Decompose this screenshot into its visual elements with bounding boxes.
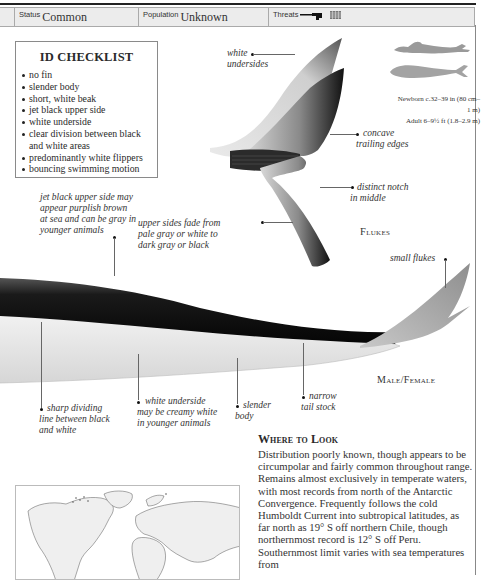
checklist-item: no fin [22,69,151,81]
leader-line [263,222,293,223]
harpoon-gun-icon [300,12,324,20]
annotation-small-flukes: small flukes [390,253,435,264]
annotation-upper-sides-fade: upper sides fade from pale gray or white… [138,218,220,251]
leader-line [138,354,139,400]
status-bar: Status Common Population Unknown Threats [0,7,475,27]
threats-cell: Threats [269,8,474,26]
annotation-line: upper sides fade from [138,218,220,229]
fishing-net-icon [330,11,342,20]
annotation-line: younger animals [40,225,136,236]
newborn-size: Newborn c.32–39 in (80 cm–1 m) [395,94,480,116]
annotation-line: distinct notch [350,182,408,193]
where-to-look: Where to Look Distribution poorly known,… [258,432,473,570]
annotation-line: in younger animals [137,418,217,429]
id-checklist: ID CHECKLIST no fin slender body short, … [15,41,158,178]
population-value: Unknown [180,10,227,25]
annotation-line: concave [356,128,409,139]
where-to-look-heading: Where to Look [258,432,473,447]
annotation-narrow-tail-stock: narrow tail stock [301,391,337,413]
leader-line [320,187,351,188]
annotation-line: pale gray or white to [138,229,220,240]
checklist-item-continued: and white areas [22,140,151,152]
annotation-line: small flukes [390,253,435,263]
annotation-line: white underside [137,396,217,407]
annotation-distinct-notch: distinct notch in middle [350,182,408,204]
status-cell: Status Common [15,8,139,26]
annotation-line: and white [39,425,110,436]
annotation-line: body [235,411,271,422]
size-caption: Newborn c.32–39 in (80 cm–1 m) Adult 6–9… [395,94,480,127]
human-swimmer-icon [392,38,472,56]
threats-label: Threats [273,10,298,19]
annotation-line: jet black upper side may [40,192,136,203]
annotation-jet-black: jet black upper side may appear purplish… [40,192,136,236]
annotation-line: line between black [39,414,110,425]
where-to-look-text: Distribution poorly known, though appear… [258,448,473,570]
leader-line [253,54,295,55]
checklist-item: clear division between black [22,128,151,140]
checklist-items: no fin slender body short, white beak je… [22,69,151,175]
leader-line [237,358,238,404]
annotation-line: trailing edges [356,139,409,150]
annotation-white-underside: white underside may be creamy white in y… [137,396,217,429]
checklist-item: slender body [22,81,151,93]
annotation-line: tail stock [301,402,337,413]
top-rule [0,3,476,5]
annotation-line: in middle [350,193,408,204]
status-value: Common [42,10,87,25]
world-map-graphic [16,486,240,580]
threat-icons [300,11,342,20]
leader-line [330,134,356,135]
adult-size: Adult 6–9½ ft (1.8–2.9 m) [395,116,480,127]
annotation-slender-body: slender body [235,400,271,422]
checklist-item: bouncing swimming motion [22,163,151,175]
annotation-line: undersides [227,59,268,70]
status-label: Status [19,10,40,19]
whale-silhouette-icon [388,60,470,82]
checklist-item: predominantly white flippers [22,152,151,164]
world-range-map [15,485,240,580]
pointer-dot [356,133,359,136]
male-female-heading: Male/Female [377,374,435,385]
annotation-line: may be creamy white [137,407,217,418]
flukes-illustration [200,38,360,278]
status-bar-lead [0,8,15,26]
leader-line [114,238,115,276]
flukes-heading: Flukes [360,226,390,237]
annotation-line: narrow [301,391,337,402]
checklist-item: jet black upper side [22,104,151,116]
leader-line [41,322,42,408]
population-label: Population [143,10,178,19]
annotation-line: at sea and can be gray in [40,214,136,225]
leader-line [445,260,446,288]
leader-line [303,343,304,395]
pointer-dot [351,186,354,189]
annotation-sharp-dividing-line: sharp dividing line between black and wh… [39,403,110,436]
annotation-line: sharp dividing [39,403,110,414]
checklist-item: short, white beak [22,93,151,105]
annotation-concave-trailing-edges: concave trailing edges [356,128,409,150]
checklist-item: white underside [22,116,151,128]
annotation-line: dark gray or black [138,240,220,251]
annotation-line: slender [235,400,271,411]
annotation-white-undersides: white undersides [227,48,268,70]
checklist-title: ID CHECKLIST [22,50,151,65]
annotation-line: appear purplish brown [40,203,136,214]
population-cell: Population Unknown [139,8,269,26]
